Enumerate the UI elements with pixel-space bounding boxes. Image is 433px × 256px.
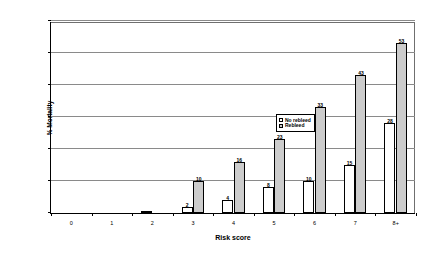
y-tick-mark-20 xyxy=(48,148,51,149)
bar-no-rebleed-7: 15 xyxy=(344,165,355,213)
x-tick-label-0: 0 xyxy=(56,220,86,226)
bar-no-rebleed-5: 8 xyxy=(263,187,274,213)
y-tick-mark-50 xyxy=(48,52,51,53)
bar-value-label: 28 xyxy=(387,118,393,124)
plot-area: 0102030405060 % Mortality 21041682310331… xyxy=(50,22,415,214)
bar-rebleed-4: 16 xyxy=(234,162,245,213)
legend-label: Rebleed xyxy=(285,123,304,128)
x-tick-mark-8+ xyxy=(375,213,376,216)
x-tick-label-8+: 8+ xyxy=(381,220,411,226)
bar-rebleed-8+: 53 xyxy=(396,43,407,213)
bar-value-label: 53 xyxy=(399,38,405,44)
bar-no-rebleed-2 xyxy=(141,211,152,213)
x-tick-mark-5 xyxy=(254,213,255,216)
x-tick-mark-3 xyxy=(173,213,174,216)
x-tick-mark-0 xyxy=(51,213,52,216)
bar-value-label: 4 xyxy=(226,195,229,201)
x-tick-label-7: 7 xyxy=(340,220,370,226)
bar-rebleed-6: 33 xyxy=(315,107,326,213)
y-tick-mark-40 xyxy=(48,84,51,85)
x-tick-label-1: 1 xyxy=(97,220,127,226)
x-tick-label-2: 2 xyxy=(137,220,167,226)
x-tick-label-3: 3 xyxy=(178,220,208,226)
bar-value-label: 2 xyxy=(186,202,189,208)
bar-value-label: 15 xyxy=(347,160,353,166)
bar-value-label: 23 xyxy=(277,134,283,140)
bar-value-label: 33 xyxy=(318,102,324,108)
x-axis-label: Risk score xyxy=(51,234,415,241)
x-tick-mark-6 xyxy=(294,213,295,216)
x-tick-label-5: 5 xyxy=(259,220,289,226)
bar-no-rebleed-3: 2 xyxy=(182,207,193,213)
bar-rebleed-3: 10 xyxy=(193,181,204,213)
x-tick-label-6: 6 xyxy=(300,220,330,226)
legend-swatch-icon xyxy=(279,124,283,128)
x-tick-mark-1 xyxy=(92,213,93,216)
gridline-50 xyxy=(51,52,415,53)
bar-rebleed-7: 43 xyxy=(355,75,366,213)
plot-frame-right xyxy=(414,22,415,213)
x-tick-mark-2 xyxy=(132,213,133,216)
x-tick-mark-4 xyxy=(213,213,214,216)
y-tick-mark-10 xyxy=(48,180,51,181)
legend-swatch-icon xyxy=(279,118,283,122)
chart-legend: No rebleedRebleed xyxy=(276,114,315,132)
x-tick-mark-7 xyxy=(335,213,336,216)
bar-value-label: 10 xyxy=(306,176,312,182)
x-tick-mark-end xyxy=(416,213,417,216)
y-axis-label: % Mortality xyxy=(46,101,53,136)
bar-rebleed-5: 23 xyxy=(274,139,285,213)
plot-frame-top xyxy=(51,22,415,23)
bar-value-label: 8 xyxy=(267,182,270,188)
bar-no-rebleed-4: 4 xyxy=(222,200,233,213)
legend-item-rebleed: Rebleed xyxy=(279,123,311,128)
bar-value-label: 16 xyxy=(236,157,242,163)
x-tick-label-4: 4 xyxy=(219,220,249,226)
bar-no-rebleed-6: 10 xyxy=(303,181,314,213)
bar-no-rebleed-8+: 28 xyxy=(384,123,395,213)
bar-value-label: 10 xyxy=(196,176,202,182)
y-tick-mark-60 xyxy=(48,20,51,21)
bar-value-label: 43 xyxy=(358,70,364,76)
gridline-60 xyxy=(51,20,415,21)
mortality-by-risk-score-chart: 0102030405060 % Mortality 21041682310331… xyxy=(0,0,433,256)
